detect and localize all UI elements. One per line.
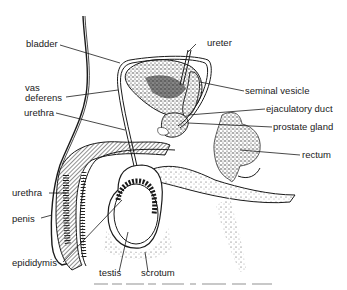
perineum	[150, 166, 295, 272]
label-ejaculatory-duct: ejaculatory duct	[266, 104, 333, 114]
label-prostate-gland: prostate gland	[273, 122, 333, 132]
label-ureter: ureter	[207, 38, 232, 48]
label-urethra-upper: urethra	[24, 108, 54, 118]
rectum	[214, 112, 260, 181]
label-urethra-lower: urethra	[12, 188, 42, 198]
label-seminal-vesicle: seminal vesicle	[245, 86, 309, 96]
label-penis: penis	[12, 214, 35, 224]
label-epididymis: epididymis	[12, 258, 57, 268]
label-bladder: bladder	[26, 39, 58, 49]
figure-caption-cutoff	[92, 281, 312, 287]
label-deferens: deferens	[25, 93, 62, 103]
label-scrotum: scrotum	[141, 268, 175, 278]
label-rectum: rectum	[302, 150, 331, 160]
label-testis: testis	[99, 268, 121, 278]
